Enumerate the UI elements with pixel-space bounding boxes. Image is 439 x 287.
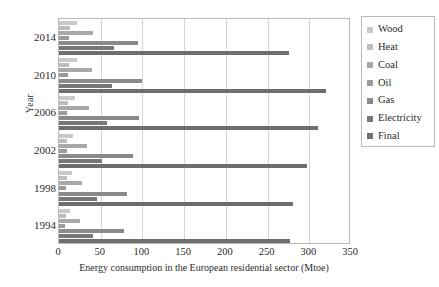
bar-coal-2006 [59, 106, 89, 110]
bar-coal-2002 [59, 144, 87, 148]
chart-legend: WoodHeatCoalOilGasElectricityFinal [361, 16, 435, 147]
bar-heat-2010 [59, 63, 69, 67]
legend-label: Coal [378, 60, 398, 71]
bar-gas-2014 [59, 41, 138, 45]
x-tick-300: 300 [300, 246, 316, 257]
bar-electricity-2014 [59, 46, 114, 50]
bar-electricity-1994 [59, 234, 93, 238]
bar-gas-1998 [59, 192, 127, 196]
legend-label: Electricity [378, 113, 422, 124]
y-tick-1998: 1998 [34, 182, 56, 194]
bar-wood-1998 [59, 171, 72, 175]
bar-electricity-2006 [59, 121, 107, 125]
bar-electricity-1998 [59, 197, 97, 201]
legend-item-wood[interactable]: Wood [367, 21, 403, 38]
y-tick-2006: 2006 [34, 106, 56, 118]
x-tick-250: 250 [259, 246, 275, 257]
bar-group-1994 [59, 207, 349, 245]
plot-area [58, 18, 350, 244]
bar-coal-1998 [59, 181, 82, 185]
y-tick-2002: 2002 [34, 144, 56, 156]
legend-swatch-oil-icon [367, 80, 373, 86]
bar-wood-2014 [59, 21, 77, 25]
chart-container: Year 201420102006200219981994 0501001502… [0, 0, 439, 287]
bar-group-2010 [59, 57, 349, 95]
bar-electricity-2010 [59, 84, 112, 88]
bar-heat-1994 [59, 214, 66, 218]
bar-group-2002 [59, 132, 349, 170]
legend-swatch-gas-icon [367, 98, 373, 104]
bar-coal-2014 [59, 31, 93, 35]
x-axis-tick-labels: 050100150200250300350 [58, 246, 350, 260]
bar-heat-1998 [59, 176, 67, 180]
bar-gas-1994 [59, 229, 124, 233]
bar-final-1998 [59, 202, 293, 206]
x-tick-350: 350 [342, 246, 358, 257]
bar-oil-2002 [59, 149, 67, 153]
legend-item-oil[interactable]: Oil [367, 74, 391, 91]
y-tick-1994: 1994 [34, 219, 56, 231]
bar-gas-2006 [59, 116, 139, 120]
bar-final-2014 [59, 51, 289, 55]
bar-wood-2006 [59, 96, 75, 100]
legend-label: Oil [378, 78, 391, 89]
bar-oil-2014 [59, 36, 69, 40]
bar-final-2006 [59, 126, 318, 130]
legend-item-electricity[interactable]: Electricity [367, 110, 422, 127]
legend-item-coal[interactable]: Coal [367, 57, 398, 74]
bar-final-1994 [59, 239, 290, 243]
bar-final-2010 [59, 89, 326, 93]
bar-oil-1998 [59, 186, 66, 190]
bar-heat-2014 [59, 26, 70, 30]
legend-label: Final [378, 131, 400, 142]
bar-oil-1994 [59, 224, 65, 228]
legend-label: Gas [378, 95, 394, 106]
bar-gas-2010 [59, 79, 142, 83]
legend-item-final[interactable]: Final [367, 128, 400, 145]
x-tick-0: 0 [55, 246, 60, 257]
x-tick-200: 200 [217, 246, 233, 257]
bar-wood-2010 [59, 58, 77, 62]
bar-group-1998 [59, 170, 349, 208]
bar-gas-2002 [59, 154, 133, 158]
bar-oil-2010 [59, 73, 68, 77]
y-tick-2010: 2010 [34, 69, 56, 81]
legend-label: Wood [378, 24, 403, 35]
bar-final-2002 [59, 164, 307, 168]
bar-heat-2006 [59, 101, 68, 105]
x-axis-title: Energy consumption in the European resid… [58, 262, 350, 273]
y-tick-2014: 2014 [34, 31, 56, 43]
bar-wood-2002 [59, 134, 73, 138]
legend-swatch-heat-icon [367, 44, 373, 50]
bar-coal-1994 [59, 219, 80, 223]
y-axis-tick-labels: 201420102006200219981994 [14, 18, 56, 244]
bar-coal-2010 [59, 68, 92, 72]
legend-swatch-coal-icon [367, 62, 373, 68]
bar-electricity-2002 [59, 159, 102, 163]
bar-group-2014 [59, 19, 349, 57]
legend-label: Heat [378, 42, 398, 53]
legend-swatch-electricity-icon [367, 116, 373, 122]
bar-oil-2006 [59, 111, 67, 115]
x-tick-50: 50 [94, 246, 105, 257]
legend-item-heat[interactable]: Heat [367, 39, 398, 56]
legend-swatch-wood-icon [367, 27, 373, 33]
x-tick-100: 100 [134, 246, 150, 257]
legend-swatch-final-icon [367, 133, 373, 139]
bar-group-2006 [59, 94, 349, 132]
x-tick-150: 150 [175, 246, 191, 257]
legend-item-gas[interactable]: Gas [367, 92, 394, 109]
bar-wood-1994 [59, 209, 70, 213]
bar-heat-2002 [59, 139, 67, 143]
